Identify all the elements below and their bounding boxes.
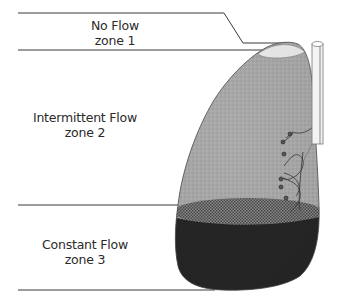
zone1-label: No Flow zone 1 — [60, 18, 170, 48]
lung-zones-diagram: No Flow zone 1 Intermittent Flow zone 2 … — [0, 0, 340, 305]
zone3-number: zone 3 — [20, 252, 150, 267]
zone3-name: Constant Flow — [20, 237, 150, 252]
zone2-name: Intermittent Flow — [10, 110, 160, 125]
zone2-label: Intermittent Flow zone 2 — [10, 110, 160, 140]
lung-illustration — [170, 40, 330, 300]
zone2-number: zone 2 — [10, 125, 160, 140]
zone1-name: No Flow — [60, 18, 170, 33]
zone3-label: Constant Flow zone 3 — [20, 237, 150, 267]
zone1-number: zone 1 — [60, 33, 170, 48]
